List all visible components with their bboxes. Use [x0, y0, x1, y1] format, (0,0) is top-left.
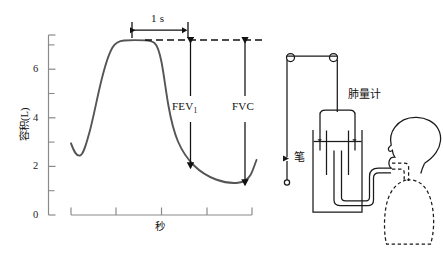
y-tick-label-4: 4: [33, 113, 38, 124]
neck-line: [421, 163, 425, 173]
figure-spirogram-and-spirometer: 0 2 4 6 容积(L) 秒 1 s FEV1 FVC 肺量计 笔: [0, 0, 443, 257]
fev1-label-subscript: 1: [193, 106, 197, 115]
y-axis: [49, 35, 56, 215]
x-axis: [71, 208, 252, 216]
spirometer-apparatus-drawing: [283, 54, 441, 245]
y-tick-label-6: 6: [33, 64, 38, 75]
pen-weight: [284, 180, 289, 185]
lungs-dashed: [385, 180, 434, 244]
x-axis-title: 秒: [155, 222, 165, 233]
pulley-left-icon: [287, 54, 295, 62]
figure-canvas: [0, 0, 443, 257]
pen-label: 笔: [294, 152, 305, 163]
volume-trace-curve: [71, 40, 257, 183]
airway-dashed-2: [392, 169, 404, 181]
interval-label-1s: 1 s: [151, 13, 164, 24]
spirometer-bell: [320, 110, 355, 151]
fvc-label: FVC: [232, 101, 254, 112]
y-axis-title: 容积(L): [20, 94, 31, 154]
spirometer-label: 肺量计: [348, 89, 381, 100]
pulley-right-icon: [330, 54, 338, 62]
pen-icon: [283, 156, 289, 162]
fev1-label: FEV1: [172, 101, 197, 115]
fev1-label-text: FEV: [172, 100, 193, 112]
interval-bracket-1s: [132, 22, 188, 38]
y-tick-label-0: 0: [33, 210, 38, 221]
head-profile: [388, 117, 440, 168]
y-tick-label-2: 2: [33, 161, 38, 172]
airway-dashed: [392, 163, 409, 181]
